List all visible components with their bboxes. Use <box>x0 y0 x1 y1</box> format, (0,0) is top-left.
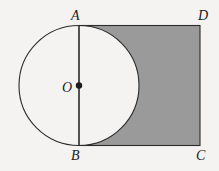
geometry-figure: A B C D O <box>0 0 219 171</box>
vertex-label-b: B <box>71 149 80 163</box>
vertex-label-d: D <box>198 9 208 23</box>
vertex-label-a: A <box>71 9 80 23</box>
center-label-o: O <box>62 81 72 95</box>
geometry-diagram <box>0 0 219 171</box>
center-point-dot <box>76 82 82 88</box>
vertex-label-c: C <box>196 149 205 163</box>
